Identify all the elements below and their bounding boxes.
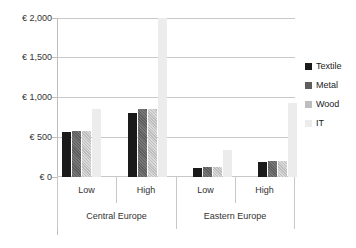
bar-textile bbox=[193, 168, 202, 177]
bar-it bbox=[288, 103, 297, 177]
legend-label: Textile bbox=[316, 62, 342, 71]
bar-metal bbox=[268, 161, 277, 177]
legend-label: Metal bbox=[316, 81, 338, 90]
y-axis-labels: € 2,000 € 1,500 € 1,000 € 500 € 0 bbox=[0, 0, 52, 248]
x-axis-group-label-central: Central Europe bbox=[57, 203, 176, 229]
legend-item-wood[interactable]: Wood bbox=[305, 95, 356, 114]
bar-wood bbox=[213, 167, 222, 177]
legend-item-metal[interactable]: Metal bbox=[305, 76, 356, 95]
legend-label: IT bbox=[316, 119, 324, 128]
legend-swatch-icon bbox=[305, 120, 312, 127]
bar-wood bbox=[148, 109, 157, 177]
x-axis-label-low: Low bbox=[57, 177, 116, 203]
x-axis-label-low: Low bbox=[176, 177, 235, 203]
legend-label: Wood bbox=[316, 100, 339, 109]
legend-item-textile[interactable]: Textile bbox=[305, 57, 356, 76]
x-axis-tier1: Low High Low High bbox=[57, 177, 295, 203]
legend-swatch-icon bbox=[305, 82, 312, 89]
legend-swatch-icon bbox=[305, 101, 312, 108]
axis-separator bbox=[294, 177, 295, 203]
bar-wood bbox=[278, 161, 287, 177]
bar-it bbox=[158, 18, 167, 177]
bar-textile bbox=[258, 162, 267, 177]
gridline bbox=[57, 57, 295, 58]
gridline bbox=[57, 18, 295, 19]
bar-metal bbox=[138, 109, 147, 177]
y-axis-tick-label: € 1,000 bbox=[22, 93, 52, 102]
bar-it bbox=[223, 150, 232, 177]
plot-area bbox=[57, 18, 295, 177]
x-axis-label-high: High bbox=[116, 177, 176, 203]
bar-textile bbox=[128, 113, 137, 177]
gridline bbox=[57, 97, 295, 98]
bar-wood bbox=[82, 131, 91, 177]
y-axis-tick-label: € 0 bbox=[39, 173, 52, 182]
legend: Textile Metal Wood IT bbox=[305, 57, 356, 133]
bar-metal bbox=[203, 167, 212, 177]
bar-chart: € 2,000 € 1,500 € 1,000 € 500 € 0 Low Hi… bbox=[0, 0, 356, 248]
y-axis-tick-label: € 1,500 bbox=[22, 53, 52, 62]
y-axis-tick-label: € 500 bbox=[29, 133, 52, 142]
x-axis-tier2: Central Europe Eastern Europe bbox=[57, 203, 295, 229]
axis-separator bbox=[294, 203, 295, 229]
x-axis-label-high: High bbox=[235, 177, 294, 203]
legend-item-it[interactable]: IT bbox=[305, 114, 356, 133]
bar-metal bbox=[72, 131, 81, 177]
bar-textile bbox=[62, 132, 71, 177]
y-axis-tick-label: € 2,000 bbox=[22, 14, 52, 23]
legend-swatch-icon bbox=[305, 63, 312, 70]
bar-it bbox=[92, 109, 101, 177]
x-axis-group-label-eastern: Eastern Europe bbox=[176, 203, 294, 229]
